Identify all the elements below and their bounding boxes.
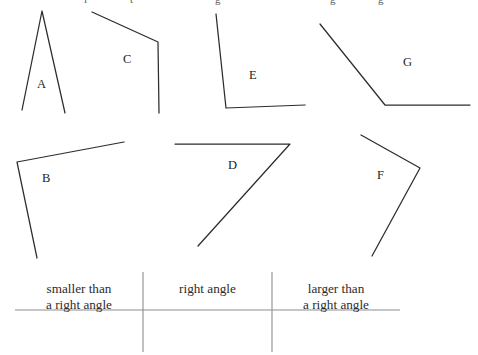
table-answer-cell-larger[interactable] [272,310,400,352]
sorting-table: smaller than a right angle right angle l… [0,0,478,355]
table-answer-cell-smaller[interactable] [15,310,143,352]
table-column-header-right: right angle [143,281,272,297]
worksheet-page: i t g g g [0,0,478,355]
table-answer-cell-right[interactable] [143,310,272,352]
table-column-header-smaller: smaller than a right angle [15,281,143,312]
table-column-header-larger: larger than a right angle [272,281,400,312]
